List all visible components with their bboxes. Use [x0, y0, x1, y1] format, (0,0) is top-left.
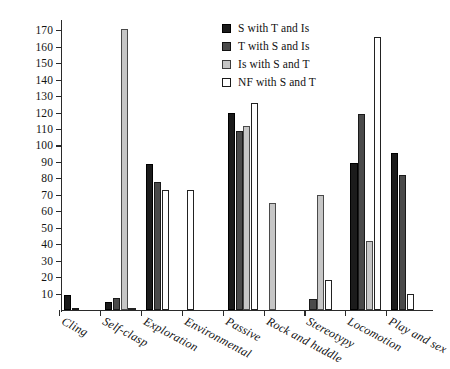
bar	[317, 195, 324, 310]
legend-item-label: NF with S and T	[238, 76, 316, 88]
y-tick	[56, 63, 62, 64]
y-tick-label: 150	[35, 57, 53, 69]
y-tick	[56, 129, 62, 130]
chart-legend: S with T and Is T with S and Is Is with …	[222, 20, 372, 92]
bar	[309, 299, 316, 310]
bar	[113, 298, 120, 310]
x-axis-line	[61, 310, 433, 311]
bar	[391, 153, 398, 310]
bar	[269, 203, 276, 310]
bar	[105, 302, 112, 310]
bar	[325, 280, 332, 310]
y-tick-label: 140	[35, 74, 53, 86]
bar	[251, 103, 258, 310]
x-tick	[386, 310, 387, 316]
bar	[72, 308, 79, 310]
y-tick-label: 100	[35, 139, 53, 151]
y-tick	[56, 244, 62, 245]
y-tick	[56, 178, 62, 179]
bar	[399, 175, 406, 310]
bar	[128, 308, 135, 310]
y-tick-label: 160	[35, 41, 53, 53]
y-tick-label: 50	[41, 222, 53, 234]
x-tick	[59, 310, 60, 316]
y-tick	[56, 228, 62, 229]
y-tick	[56, 113, 62, 114]
bar	[162, 190, 169, 310]
x-tick	[100, 310, 101, 316]
y-tick-label: 70	[41, 189, 53, 201]
x-category-label: Self-clasp	[100, 314, 151, 350]
y-tick-label: 40	[41, 238, 53, 250]
y-tick	[56, 80, 62, 81]
legend-item-label: S with T and Is	[238, 22, 309, 34]
y-tick-label: 10	[41, 288, 53, 300]
y-tick-label: 90	[41, 156, 53, 168]
y-tick	[56, 47, 62, 48]
black-swatch-icon	[222, 24, 231, 33]
x-tick	[223, 310, 224, 316]
x-tick	[182, 310, 183, 316]
bar	[187, 190, 194, 310]
y-tick	[56, 96, 62, 97]
bar	[243, 126, 250, 310]
bar	[121, 29, 128, 310]
bar	[366, 241, 373, 310]
x-tick	[304, 310, 305, 316]
x-tick	[345, 310, 346, 316]
legend-item-label: T with S and Is	[238, 40, 310, 52]
y-tick-label: 120	[35, 107, 53, 119]
y-tick-label: 30	[41, 255, 53, 267]
y-tick	[56, 211, 62, 212]
y-tick-label: 20	[41, 271, 53, 283]
dark-gray-swatch-icon	[222, 42, 231, 51]
bar	[374, 37, 381, 310]
x-tick	[264, 310, 265, 316]
bar	[358, 114, 365, 310]
bar	[154, 182, 161, 310]
light-gray-swatch-icon	[222, 60, 231, 69]
bar	[236, 131, 243, 310]
white-swatch-icon	[222, 78, 231, 87]
bar	[350, 163, 357, 310]
legend-item: S with T and Is	[222, 20, 372, 36]
y-tick-label: 130	[35, 90, 53, 102]
bar	[64, 295, 71, 310]
y-tick	[56, 277, 62, 278]
legend-item: Is with S and T	[222, 56, 372, 72]
y-tick	[56, 195, 62, 196]
y-tick	[56, 30, 62, 31]
y-tick	[56, 261, 62, 262]
y-tick-label: 110	[36, 123, 53, 135]
x-category-label: Cling	[59, 314, 90, 340]
legend-item: NF with S and T	[222, 74, 372, 90]
legend-item: T with S and Is	[222, 38, 372, 54]
bar	[228, 113, 235, 310]
y-tick	[56, 162, 62, 163]
bar	[407, 294, 414, 310]
bar	[146, 164, 153, 310]
y-tick	[56, 145, 62, 146]
y-tick-label: 170	[35, 24, 53, 36]
legend-item-label: Is with S and T	[238, 58, 310, 70]
y-tick	[56, 294, 62, 295]
x-tick	[141, 310, 142, 316]
y-tick-label: 60	[41, 205, 53, 217]
y-tick-label: 80	[41, 172, 53, 184]
